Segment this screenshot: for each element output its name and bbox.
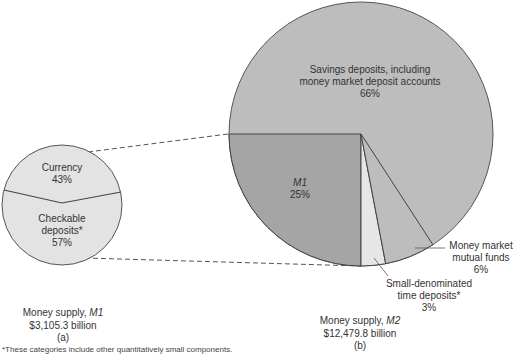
small-time-pct: 3% xyxy=(374,302,484,314)
mmmf-line2: mutual funds xyxy=(438,252,524,264)
checkable-pct: 57% xyxy=(22,237,102,249)
small-time-line1: Small-denominated xyxy=(374,278,484,290)
pie-b-m1-label: M1 25% xyxy=(270,177,330,201)
m1-name: M1 xyxy=(293,177,307,188)
pie-a-currency-label: Currency 43% xyxy=(22,162,102,186)
pie-a-caption: Money supply, M1 $3,105.3 billion (a) xyxy=(8,307,118,345)
m1-pct: 25% xyxy=(270,189,330,201)
savings-line1: Savings deposits, including xyxy=(285,64,455,76)
caption-a-m1: M1 xyxy=(89,307,103,318)
mmmf-pct: 6% xyxy=(438,264,524,276)
connector-top-dashed-line xyxy=(88,134,228,152)
pie-b-mmmf-label: Money market mutual funds 6% xyxy=(438,240,524,276)
caption-a-panel: (a) xyxy=(8,332,118,345)
pie-b-caption: Money supply, M2 $12,479.8 billion (b) xyxy=(300,315,420,353)
pie-b-savings-label: Savings deposits, including money market… xyxy=(285,64,455,100)
currency-name: Currency xyxy=(22,162,102,174)
currency-pct: 43% xyxy=(22,174,102,186)
caption-b-m2: M2 xyxy=(386,315,400,326)
caption-a-total: $3,105.3 billion xyxy=(8,320,118,333)
pie-a-checkable-label: Checkable deposits* 57% xyxy=(22,213,102,249)
caption-a-title: Money supply, xyxy=(23,307,90,318)
pie-b xyxy=(229,2,493,276)
mmmf-line1: Money market xyxy=(438,240,524,252)
pie-b-small-time-label: Small-denominated time deposits* 3% xyxy=(374,278,484,314)
caption-b-panel: (b) xyxy=(300,340,420,353)
checkable-line1: Checkable xyxy=(22,213,102,225)
small-time-line2: time deposits* xyxy=(374,290,484,302)
footnote: *These categories include other quantita… xyxy=(2,345,232,354)
savings-line2: money market deposit accounts xyxy=(285,76,455,88)
savings-pct: 66% xyxy=(285,88,455,100)
caption-b-title: Money supply, xyxy=(320,315,387,326)
checkable-line2: deposits* xyxy=(22,225,102,237)
caption-b-total: $12,479.8 billion xyxy=(300,328,420,341)
